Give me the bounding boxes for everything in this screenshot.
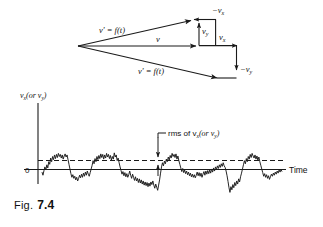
- label-vy: vy: [202, 26, 209, 37]
- label-vx: vx: [219, 32, 226, 43]
- label-lower-resultant: v' = f(t): [138, 66, 164, 76]
- caption-number: 7.4: [37, 198, 54, 212]
- label-neg-vy: −vy: [240, 64, 253, 75]
- vector-upper-resultant-arrow: [78, 21, 191, 47]
- caption-prefix: Fig.: [14, 199, 33, 211]
- noise-waveform: [42, 153, 282, 193]
- plot-y-axis-label: vx(or vy): [20, 91, 47, 101]
- label-mean-vector: v: [156, 34, 160, 44]
- plot-zero-label: 0: [25, 166, 30, 175]
- figure-7-4: v' = f(t) v' = f(t) v −vx vy vx −vy: [0, 0, 323, 227]
- figure-canvas: v' = f(t) v' = f(t) v −vx vy vx −vy: [0, 0, 323, 227]
- label-neg-vx: −vx: [212, 5, 225, 16]
- label-upper-resultant: v' = f(t): [99, 25, 125, 35]
- time-series-plot: vx(or vy) 0 Time rms of vx(or vy): [20, 91, 308, 192]
- figure-caption: Fig.7.4: [14, 198, 54, 212]
- vector-diagram: v' = f(t) v' = f(t) v −vx vy vx −vy: [78, 5, 253, 78]
- plot-x-axis-label: Time: [289, 165, 308, 175]
- rms-annotation-label: rms of vx(or vy): [168, 129, 220, 139]
